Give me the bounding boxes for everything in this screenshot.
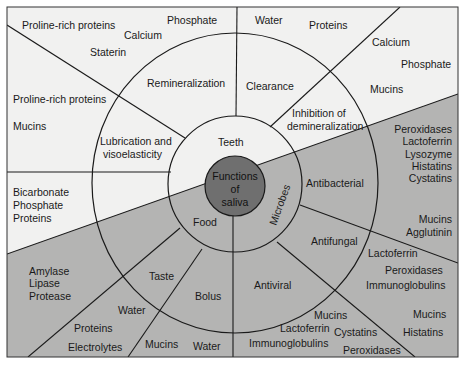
comp-lub-mucins: Mucins <box>13 120 46 132</box>
comp-clear-proteins: Proteins <box>309 19 348 31</box>
comp-remin-prp: Proline-rich proteins <box>22 19 115 31</box>
comp-af-histatins: Histatins <box>403 326 443 338</box>
comp-lub-prp: Proline-rich proteins <box>13 93 106 105</box>
saliva-functions-diagram: Functions of saliva Teeth Food Microbes … <box>0 0 464 365</box>
comp-av-cystatins: Cystatins <box>334 326 377 338</box>
comp-remin-staterin: Staterin <box>90 46 126 58</box>
comp-dig-protease: Protease <box>29 290 71 302</box>
comp-bolus-mucins: Mucins <box>145 338 178 350</box>
label-lubrication-2: visoelasticity <box>103 148 163 160</box>
comp-buf-proteins: Proteins <box>13 212 52 224</box>
comp-dig-amylase: Amylase <box>29 265 69 277</box>
comp-af-mucins: Mucins <box>413 308 446 320</box>
label-inhibition-2: demineralization <box>287 120 364 132</box>
comp-taste-water: Water <box>118 304 146 316</box>
label-inhibition-1: Inhibition of <box>292 107 346 119</box>
label-lubrication-1: Lubrication and <box>100 135 172 147</box>
comp-inhib-calcium: Calcium <box>372 36 410 48</box>
comp-av-peroxidases: Peroxidases <box>343 344 401 356</box>
comp-ab-histatins: Histatins <box>412 160 452 172</box>
comp-ab-agglutinin: Agglutinin <box>406 226 452 238</box>
comp-af-peroxidases: Peroxidases <box>385 264 443 276</box>
label-taste: Taste <box>149 270 174 282</box>
comp-inhib-phosphate: Phosphate <box>401 58 451 70</box>
comp-dig-lipase: Lipase <box>29 277 60 289</box>
comp-bolus-water: Water <box>193 340 221 352</box>
label-teeth: Teeth <box>218 136 244 148</box>
comp-remin-phosphate: Phosphate <box>167 14 217 26</box>
comp-inhib-mucins: Mucins <box>370 83 403 95</box>
label-remineralization: Remineralization <box>147 77 225 89</box>
comp-buf-bicarbonate: Bicarbonate <box>13 186 69 198</box>
comp-ab-lactoferrin: Lactoferrin <box>402 135 452 147</box>
comp-ab-mucins: Mucins <box>419 213 452 225</box>
label-food: Food <box>193 216 217 228</box>
comp-av-mucins: Mucins <box>314 309 347 321</box>
comp-av-lactoferrin: Lactoferrin <box>280 322 330 334</box>
comp-av-immunoglobulins: Immunoglobulins <box>249 337 328 349</box>
comp-ab-lysozyme: Lysozyme <box>405 148 452 160</box>
comp-af-immunoglobulins: Immunoglobulins <box>366 279 445 291</box>
center-line-1: Functions <box>212 170 258 182</box>
comp-taste-electrolytes: Electrolytes <box>68 341 122 353</box>
comp-buf-phosphate: Phosphate <box>13 199 63 211</box>
comp-remin-calcium: Calcium <box>124 29 162 41</box>
comp-clear-water: Water <box>255 14 283 26</box>
comp-af-lactoferrin: Lactoferrin <box>368 247 418 259</box>
comp-ab-peroxidases: Peroxidases <box>394 123 452 135</box>
label-antiviral: Antiviral <box>254 279 291 291</box>
comp-ab-cystatins: Cystatins <box>409 172 452 184</box>
label-bolus: Bolus <box>195 290 221 302</box>
center-line-2: of <box>231 183 240 195</box>
comp-taste-proteins: Proteins <box>74 322 113 334</box>
label-antifungal: Antifungal <box>311 235 358 247</box>
center-line-3: saliva <box>222 196 249 208</box>
label-antibacterial: Antibacterial <box>306 177 364 189</box>
label-clearance: Clearance <box>246 80 294 92</box>
